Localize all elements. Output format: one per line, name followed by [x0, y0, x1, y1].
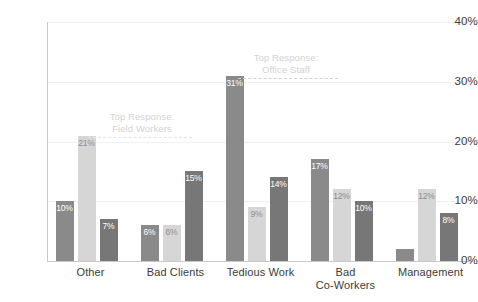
annotation-office-staff-leader: [238, 78, 338, 79]
bar-value-label: 12%: [418, 192, 436, 201]
bar-value-label: 6%: [141, 228, 159, 237]
bar: 6%: [141, 225, 159, 261]
annotation-field-workers-line1: Top Response:: [88, 111, 196, 123]
annotation-field-workers-line2: Field Workers: [88, 123, 196, 135]
bar: 10%: [56, 201, 74, 261]
x-axis-label-other: Other: [48, 266, 133, 279]
bar-chart: 40% 30% 20% 10% 0% 10%21%7%6%6%15%31%9%1…: [0, 0, 478, 302]
x-axis-line: [47, 261, 473, 262]
bar: 6%: [163, 225, 181, 261]
annotation-office-staff-line2: Office Staff: [232, 64, 340, 76]
bar-group: 6%6%15%: [133, 22, 218, 261]
x-axis-label-bad-co-workers: BadCo-Workers: [303, 266, 388, 292]
x-axis-label-tedious-work: Tedious Work: [218, 266, 303, 279]
bar: 7%: [100, 219, 118, 261]
bar-value-label: 9%: [248, 210, 266, 219]
bar-value-label: 6%: [163, 228, 181, 237]
annotation-field-workers-leader: [88, 137, 192, 138]
bar-value-label: 12%: [333, 192, 351, 201]
bar: 12%: [418, 189, 436, 261]
bar-value-label: 7%: [100, 222, 118, 231]
bar-value-label: 2%: [396, 252, 414, 261]
x-axis-label-management: Management: [388, 266, 473, 279]
bar-group: 2%12%8%: [388, 22, 473, 261]
bar-value-label: 8%: [440, 216, 458, 225]
bar-value-label: 14%: [270, 180, 288, 189]
x-axis-label-line: Tedious Work: [218, 266, 303, 279]
bar: 15%: [185, 171, 203, 261]
x-axis-label-line: Management: [388, 266, 473, 279]
bar: 8%: [440, 213, 458, 261]
bar: 21%: [78, 136, 96, 261]
x-axis-label-line: Other: [48, 266, 133, 279]
bar: 12%: [333, 189, 351, 261]
x-axis-label-bad-clients: Bad Clients: [133, 266, 218, 279]
bar-value-label: 15%: [185, 174, 203, 183]
bar-value-label: 21%: [78, 139, 96, 148]
bar: 17%: [311, 159, 329, 261]
bar-group: 10%21%7%: [48, 22, 133, 261]
annotation-office-staff-line1: Top Response:: [232, 52, 340, 64]
x-axis-label-line: Co-Workers: [303, 279, 388, 292]
bar: 14%: [270, 177, 288, 261]
bar-value-label: 10%: [56, 204, 74, 213]
x-axis-label-line: Bad: [303, 266, 388, 279]
bar: 2%: [396, 249, 414, 261]
bar-value-label: 31%: [226, 79, 244, 88]
bar-value-label: 10%: [355, 204, 373, 213]
bar: 31%: [226, 76, 244, 261]
x-axis-label-line: Bad Clients: [133, 266, 218, 279]
bar: 9%: [248, 207, 266, 261]
annotation-office-staff: Top Response: Office Staff: [232, 52, 340, 75]
annotation-field-workers: Top Response: Field Workers: [88, 111, 196, 134]
bar-value-label: 17%: [311, 162, 329, 171]
bar: 10%: [355, 201, 373, 261]
